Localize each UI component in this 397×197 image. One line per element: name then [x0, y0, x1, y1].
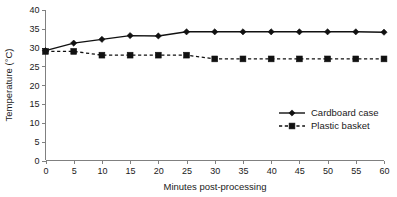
data-point-diamond [324, 29, 330, 35]
data-point-diamond [240, 29, 246, 35]
data-point-square [43, 48, 49, 54]
y-tick-label: 5 [34, 137, 39, 147]
x-axis-ticks: 051015202530354045505560 [43, 161, 389, 176]
data-point-square [184, 52, 190, 58]
x-tick-label: 20 [154, 166, 164, 176]
y-tick-label: 30 [29, 43, 39, 53]
data-point-square [289, 123, 295, 129]
line-chart: 0510152025303540 05101520253035404550556… [0, 0, 397, 197]
legend-item-2[interactable]: Plastic basket [279, 120, 370, 131]
x-axis-title: Minutes post-processing [164, 181, 267, 192]
data-point-square [155, 52, 161, 58]
data-point-diamond [212, 29, 218, 35]
x-tick-label: 35 [238, 166, 248, 176]
data-point-diamond [268, 29, 274, 35]
y-axis-title: Temperature (°C) [3, 49, 14, 122]
x-tick-label: 40 [267, 166, 277, 176]
x-tick-label: 50 [323, 166, 333, 176]
y-tick-label: 15 [29, 99, 39, 109]
data-point-square [240, 56, 246, 62]
x-tick-label: 25 [182, 166, 192, 176]
x-tick-label: 30 [210, 166, 220, 176]
data-point-square [268, 56, 274, 62]
data-point-diamond [296, 29, 302, 35]
data-point-diamond [289, 110, 295, 116]
legend-label: Cardboard case [311, 107, 379, 118]
x-tick-label: 45 [295, 166, 305, 176]
chart-figure: 0510152025303540 05101520253035404550556… [0, 0, 397, 197]
data-point-diamond [183, 29, 189, 35]
y-tick-label: 40 [29, 5, 39, 15]
data-point-square [353, 56, 359, 62]
x-tick-label: 0 [43, 166, 48, 176]
y-tick-label: 10 [29, 118, 39, 128]
data-point-square [71, 48, 77, 54]
data-point-square [127, 52, 133, 58]
x-tick-label: 15 [126, 166, 136, 176]
data-point-square [325, 56, 331, 62]
data-point-diamond [155, 33, 161, 39]
data-point-diamond [127, 32, 133, 38]
series-2 [43, 48, 387, 61]
y-tick-label: 0 [34, 156, 39, 166]
data-point-square [381, 56, 387, 62]
x-tick-label: 60 [379, 166, 389, 176]
legend-label: Plastic basket [311, 120, 370, 131]
legend-item-1[interactable]: Cardboard case [279, 107, 379, 118]
data-point-diamond [381, 29, 387, 35]
data-point-diamond [99, 36, 105, 42]
y-axis-ticks: 0510152025303540 [29, 5, 45, 166]
y-tick-label: 35 [29, 24, 39, 34]
data-point-square [99, 52, 105, 58]
chart-legend: Cardboard casePlastic basket [279, 107, 379, 131]
x-tick-label: 10 [97, 166, 107, 176]
data-point-diamond [71, 40, 77, 46]
x-tick-label: 55 [351, 166, 361, 176]
x-tick-label: 5 [72, 166, 77, 176]
data-point-square [296, 56, 302, 62]
series-1 [42, 29, 387, 54]
y-tick-label: 25 [29, 62, 39, 72]
data-point-diamond [353, 29, 359, 35]
data-point-square [212, 56, 218, 62]
y-tick-label: 20 [29, 81, 39, 91]
series-layer [42, 29, 387, 62]
